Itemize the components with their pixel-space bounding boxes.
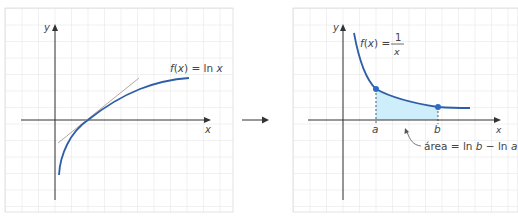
area-label: área = ln b − ln a: [424, 140, 517, 152]
point-a: [373, 86, 379, 92]
left-function-label: f(x) = ln x: [170, 62, 224, 74]
fraction-numerator: 1: [395, 32, 401, 43]
left-x-axis-label: x: [204, 124, 211, 135]
right-x-axis-label: x: [495, 125, 502, 135]
point-a-label: a: [372, 123, 378, 135]
point-b: [435, 104, 441, 110]
point-b-label: b: [434, 123, 441, 135]
figure-canvas: f(x) = ln x x y f(x) = 1 x a b: [0, 0, 518, 221]
left-graph-panel: f(x) = ln x x y: [5, 8, 233, 212]
transition-arrow: [242, 117, 269, 124]
right-graph-panel: f(x) = 1 x a b x y área = ln b − ln a: [293, 8, 518, 212]
left-grid: [5, 8, 233, 212]
right-y-axis-label: y: [332, 22, 340, 33]
fraction-denominator: x: [393, 46, 400, 57]
right-function-label: f(x) =: [360, 37, 390, 49]
left-y-axis-label: y: [43, 22, 51, 33]
right-arrow-icon: [262, 117, 269, 124]
